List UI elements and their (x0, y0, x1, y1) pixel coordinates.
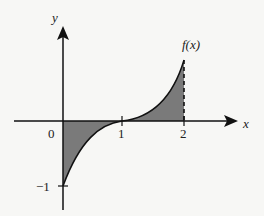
tick-label-2: 2 (180, 126, 187, 141)
shaded-region-right (122, 60, 184, 121)
x-axis-label: x (242, 116, 249, 131)
tick-label-1: 1 (118, 126, 125, 141)
function-label: f(x) (182, 37, 200, 52)
tick-label-minus1: −1 (36, 179, 50, 194)
function-area-diagram: y x f(x) 0 1 2 −1 (0, 0, 264, 216)
y-axis-label: y (50, 10, 58, 25)
shaded-region-left (63, 121, 122, 186)
tick-label-0: 0 (48, 126, 55, 141)
